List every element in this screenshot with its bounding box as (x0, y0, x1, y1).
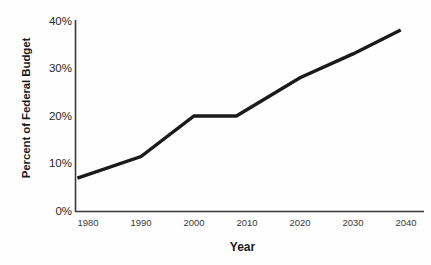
x-axis-title: Year (75, 240, 410, 254)
x-tick-label-2010: 2010 (225, 217, 269, 228)
x-tick-label-2020: 2020 (278, 217, 322, 228)
x-tick-label-2040: 2040 (384, 217, 428, 228)
x-tick-label-1990: 1990 (119, 217, 163, 228)
x-tick-label-2030: 2030 (331, 217, 375, 228)
data-series-line (77, 30, 400, 178)
x-tick-label-2000: 2000 (172, 217, 216, 228)
line-chart: Percent of Federal Budget 40% 30% 20% 10… (0, 0, 431, 265)
x-tick-label-1980: 1980 (66, 217, 110, 228)
